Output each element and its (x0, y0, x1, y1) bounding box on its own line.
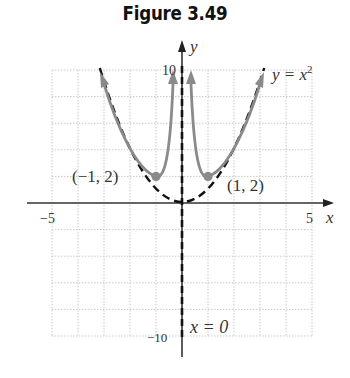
point-marker-left (151, 172, 160, 181)
x-min-label: −5 (40, 211, 55, 226)
graph: y x −5 5 10 −10 (−1, 2) (1, 2) y = x2 x … (0, 0, 350, 378)
y-min-label: −10 (147, 330, 167, 345)
asymptote-label: x = 0 (189, 317, 228, 337)
y-axis-label: y (188, 37, 198, 56)
function-curve-right (191, 84, 260, 177)
x-max-label: 5 (306, 211, 313, 226)
parabola-label: y = x2 (270, 63, 313, 84)
point-marker-right (203, 172, 212, 181)
point-label-left: (−1, 2) (72, 167, 118, 186)
parabola-label-exponent: 2 (307, 63, 313, 75)
function-curve-left (104, 84, 173, 177)
y-max-label: 10 (162, 63, 176, 78)
x-axis-label: x (325, 208, 334, 227)
parabola-label-text: y = x (270, 65, 308, 84)
point-label-right: (1, 2) (227, 176, 264, 195)
